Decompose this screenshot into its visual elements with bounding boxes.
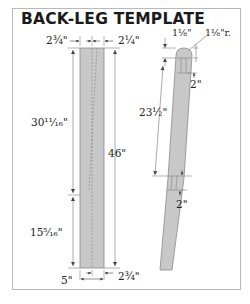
side-view: 1⅛" 1⅛"r. 2" 23½" 2": [139, 27, 231, 270]
dim-top-left-width: 2¾": [46, 34, 68, 46]
dim-top-radius: 1⅛"r.: [205, 27, 231, 38]
dim-bottom-right: 2¾": [118, 270, 140, 282]
dim-overall-length: 46": [108, 147, 126, 159]
dim-lower-length: 15⁵⁄₁₆": [30, 226, 63, 238]
dim-top-right-width: 2¼": [118, 34, 140, 46]
side-leg-profile: [160, 48, 192, 270]
dim-lower-mortise: 2": [176, 198, 188, 210]
dim-bottom-left: 5": [61, 274, 73, 286]
dim-mid-length: 23½": [139, 106, 167, 118]
dim-upper-length: 30¹¹⁄₁₆": [31, 116, 68, 128]
back-leg-drawing: 2¾" 2¼" 30¹¹⁄₁₆" 46" 15⁵⁄₁₆" 5" 2¾": [0, 0, 250, 304]
dim-top-mortise: 2": [190, 78, 202, 90]
front-view: 2¾" 2¼" 30¹¹⁄₁₆" 46" 15⁵⁄₁₆" 5" 2¾": [30, 34, 140, 286]
dim-top-thickness: 1⅛": [172, 27, 192, 38]
